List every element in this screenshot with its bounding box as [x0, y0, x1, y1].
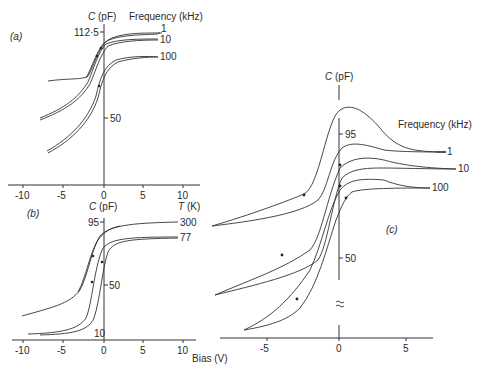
panel-a-label: (a) [10, 31, 22, 42]
svg-text:100: 100 [432, 182, 449, 193]
svg-text:0: 0 [336, 343, 342, 354]
svg-text:-10: -10 [15, 190, 30, 201]
svg-text:1: 1 [161, 23, 167, 34]
panel-a-ytick-label-top: 112·5 [74, 27, 99, 38]
panel-b-ytick-label-bottom: 10 [94, 328, 106, 339]
panel-a-y-axis-label: C (pF) [88, 11, 116, 22]
svg-text:1: 1 [447, 146, 453, 157]
svg-text:5: 5 [140, 345, 146, 356]
panel-c-series-10khz: 10 [215, 158, 470, 295]
svg-text:5: 5 [403, 343, 409, 354]
panel-c-ytick-label-mid: 50 [345, 253, 357, 264]
panel-b-x-ticks: -10 -5 0 5 10 [15, 340, 189, 356]
panel-a-series-10khz: 10 [40, 34, 172, 120]
panel-a-ytick-label-mid: 50 [110, 113, 122, 124]
svg-text:100: 100 [160, 51, 177, 62]
panel-a: (a) C (pF) Frequency (kHz) 112·5 50 -10 … [8, 11, 203, 201]
panel-a-legend-title: Frequency (kHz) [129, 11, 203, 22]
panel-a-series-100khz: 100 [47, 51, 177, 153]
svg-text:5: 5 [140, 190, 146, 201]
figure-canvas: (a) C (pF) Frequency (kHz) 112·5 50 -10 … [0, 0, 482, 370]
svg-text:77: 77 [180, 232, 192, 243]
svg-text:10: 10 [177, 345, 189, 356]
panel-c-label: (c) [386, 224, 398, 235]
svg-text:-10: -10 [15, 345, 30, 356]
x-axis-label-left: Bias (V) [192, 353, 228, 364]
svg-text:10: 10 [160, 34, 172, 45]
svg-text:-5: -5 [57, 190, 66, 201]
panel-c-x-ticks: -5 0 5 [260, 338, 409, 354]
panel-b-ytick-label-mid: 50 [109, 280, 121, 291]
panel-b-series-300k: 300 [22, 217, 197, 316]
panel-b-ytick-label-top: 95 [88, 217, 100, 228]
panel-c-legend-title: Frequency (kHz) [398, 119, 472, 130]
panel-a-x-ticks: -10 -5 0 5 10 [15, 185, 189, 201]
panel-c: C (pF) Frequency (kHz) (c) 95 50 -5 0 5 … [212, 71, 472, 354]
panel-a-series-1khz: 1 [48, 23, 167, 81]
axis-break-icon [336, 301, 344, 307]
svg-text:-5: -5 [57, 345, 66, 356]
panel-b-label: (b) [27, 208, 39, 219]
svg-text:10: 10 [458, 163, 470, 174]
panel-c-ytick-label-top: 95 [345, 129, 357, 140]
svg-text:-5: -5 [260, 343, 269, 354]
panel-b-legend-title: T (K) [178, 201, 200, 212]
svg-text:0: 0 [101, 345, 107, 356]
panel-b: (b) C (pF) T (K) 95 50 10 -10 -5 0 5 10 … [12, 201, 228, 364]
panel-b-y-axis-label: C (pF) [89, 201, 117, 212]
panel-c-y-axis-label: C (pF) [325, 71, 353, 82]
svg-text:10: 10 [177, 190, 189, 201]
svg-text:0: 0 [101, 190, 107, 201]
svg-text:300: 300 [180, 217, 197, 228]
